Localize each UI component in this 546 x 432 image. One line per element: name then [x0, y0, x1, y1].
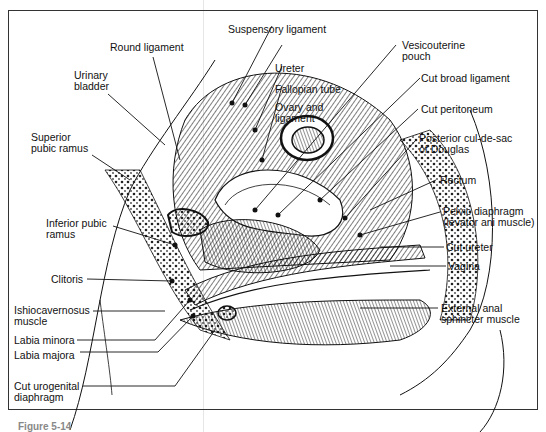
- label-ishiocavernosus-muscle: Ishiocavernosusmuscle: [14, 305, 90, 327]
- label-line: diaphragm: [14, 392, 79, 403]
- label-labia-majora: Labia majora: [14, 350, 75, 361]
- label-rectum: Rectum: [440, 175, 476, 186]
- label-vesicouterine-pouch: Vesicouterinepouch: [402, 40, 465, 62]
- label-line: sphincter muscle: [441, 314, 520, 325]
- label-line: muscle: [14, 316, 90, 327]
- label-line: bladder: [74, 81, 109, 92]
- figure-caption: Figure 5-14: [18, 421, 71, 432]
- label-cut-peritoneum: Cut peritoneum: [421, 104, 493, 115]
- label-clitoris: Clitoris: [51, 274, 83, 285]
- label-suspensory-ligament: Suspensory ligament: [228, 24, 326, 35]
- label-superior-pubic-ramus: Superiorpubic ramus: [31, 132, 88, 154]
- label-cut-urogenital-diaphragm: Cut urogenitaldiaphragm: [14, 381, 79, 403]
- label-line: ramus: [46, 229, 107, 240]
- label-labia-minora: Labia minora: [14, 335, 75, 346]
- label-urinary-bladder: Urinarybladder: [74, 70, 109, 92]
- label-round-ligament: Round ligament: [110, 42, 184, 53]
- label-line: pubic ramus: [31, 143, 88, 154]
- label-posterior-cul-de-sac: Posterior cul-de-sacof Douglas: [419, 133, 512, 155]
- label-pelvic-diaphragm: Pelvic diaphragm(levator ani muscle): [443, 206, 535, 228]
- label-ureter: Ureter: [275, 63, 304, 74]
- label-fallopian-tube: Fallopian tube: [275, 84, 341, 95]
- label-inferior-pubic-ramus: Inferior pubicramus: [46, 218, 107, 240]
- label-line: ligament: [275, 113, 323, 124]
- label-line: of Douglas: [419, 144, 512, 155]
- label-vagina: Vagina: [448, 261, 480, 272]
- label-ovary-and-ligament: Ovary andligament: [275, 102, 323, 124]
- label-external-anal-sphincter: External analsphincter muscle: [441, 303, 520, 325]
- label-cut-broad-ligament: Cut broad ligament: [421, 73, 510, 84]
- label-cut-ureter: Cut ureter: [446, 242, 493, 253]
- label-line: pouch: [402, 51, 465, 62]
- label-line: (levator ani muscle): [443, 217, 535, 228]
